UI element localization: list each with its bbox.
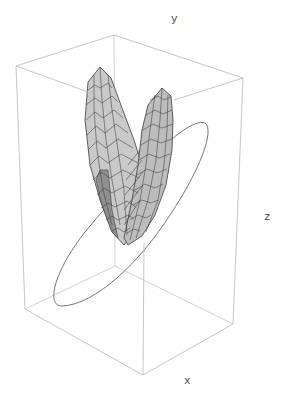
figure-caption bbox=[40, 394, 250, 403]
plot-3d bbox=[0, 0, 286, 403]
x-axis-label: x bbox=[184, 375, 191, 387]
y-axis-label: y bbox=[171, 13, 178, 25]
surface bbox=[85, 67, 173, 245]
z-axis-label: z bbox=[264, 211, 271, 223]
